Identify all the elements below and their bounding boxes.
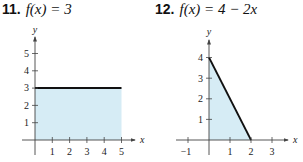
chart-11-ylabel: y — [32, 24, 38, 35]
chart-11-ytick-label: 1 — [24, 117, 29, 128]
chart-11-xtick-label: 3 — [84, 146, 89, 157]
charts-canvas: 1 2 3 4 5 1 2 3 4 5 x y −1 — [0, 0, 303, 162]
chart-11-xtick-label: 2 — [67, 146, 72, 157]
chart-12-ytick-label: 3 — [198, 73, 203, 84]
chart-12-ylabel: y — [206, 26, 212, 37]
chart-11-xtick-label: 4 — [102, 146, 107, 157]
chart-12-ytick-label: 2 — [198, 93, 203, 104]
chart-11-ytick-label: 4 — [24, 65, 29, 76]
chart-11-ytick-label: 5 — [24, 48, 29, 59]
chart-11-shaded-area — [35, 88, 122, 140]
chart-11-xlabel: x — [139, 134, 145, 145]
chart-12-ytick-label: 4 — [198, 52, 203, 63]
chart-11-ytick-label: 3 — [24, 82, 29, 93]
chart-12-ytick-label: 1 — [198, 114, 203, 125]
chart-12-xtick-label: −1 — [181, 146, 192, 157]
chart-11-ytick-label: 2 — [24, 100, 29, 111]
chart-12-xtick-label: 1 — [228, 146, 233, 157]
chart-12-xtick-label: 3 — [270, 146, 275, 157]
chart-12: −1 1 2 3 1 2 3 4 x y — [176, 26, 298, 157]
chart-12-xtick-label: 2 — [249, 146, 254, 157]
chart-11: 1 2 3 4 5 1 2 3 4 5 x y — [22, 24, 145, 157]
chart-11-xtick-label: 5 — [119, 146, 124, 157]
chart-12-xlabel: x — [292, 134, 298, 145]
chart-11-xtick-label: 1 — [50, 146, 55, 157]
